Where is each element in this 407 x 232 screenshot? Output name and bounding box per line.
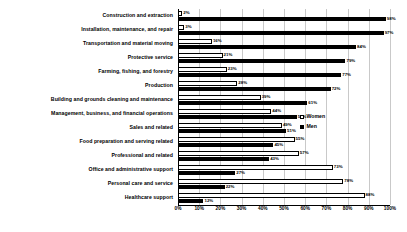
bar-men-wrap: 12% <box>178 199 390 204</box>
bar-value-label: 98% <box>386 17 396 21</box>
chart-container: Construction and extractionInstallation,… <box>0 0 407 232</box>
legend-item-women[interactable]: Women <box>300 114 325 119</box>
bar-men[interactable] <box>178 73 341 78</box>
legend-swatch-women-icon <box>300 115 304 119</box>
bar-women[interactable] <box>178 151 299 156</box>
bar-men-wrap: 79% <box>178 59 390 64</box>
bar-men-wrap: 77% <box>178 73 390 78</box>
bar-men-wrap: 56% <box>178 115 390 120</box>
bar-women-wrap: 44% <box>178 109 390 114</box>
bar-men[interactable] <box>178 157 269 162</box>
x-tick-label: 70% <box>322 207 332 212</box>
bar-women[interactable] <box>178 165 333 170</box>
bar-men[interactable] <box>178 143 273 148</box>
category-label: Farming, fishing, and forestry <box>0 65 176 79</box>
bar-women[interactable] <box>178 81 237 86</box>
bar-men[interactable] <box>178 171 235 176</box>
bar-women-wrap: 23% <box>178 67 390 72</box>
bar-women[interactable] <box>178 123 282 128</box>
x-tick-label: 20% <box>216 207 226 212</box>
bar-women-wrap: 73% <box>178 165 390 170</box>
bar-men[interactable] <box>178 101 307 106</box>
bar-value-label: 73% <box>333 165 343 169</box>
bar-value-label: 77% <box>341 73 351 77</box>
bar-row: 55%45% <box>178 135 390 149</box>
bar-value-label: 27% <box>235 171 245 175</box>
gridline <box>390 9 391 205</box>
bar-row: 16%84% <box>178 37 390 51</box>
bar-value-label: 28% <box>237 81 247 85</box>
bar-value-label: 16% <box>212 39 222 43</box>
bar-men[interactable] <box>178 31 384 36</box>
bar-row: 88%12% <box>178 191 390 205</box>
bar-men-wrap: 98% <box>178 17 390 22</box>
category-axis-labels: Construction and extractionInstallation,… <box>0 9 176 205</box>
legend-label: Men <box>307 124 317 129</box>
bar-value-label: 84% <box>356 45 366 49</box>
chart-legend: WomenMen <box>300 114 325 129</box>
bar-value-label: 61% <box>307 101 317 105</box>
category-label: Personal care and service <box>0 177 176 191</box>
x-tick-label: 90% <box>364 207 374 212</box>
bar-value-label: 43% <box>269 157 279 161</box>
bar-men[interactable] <box>178 87 331 92</box>
bar-row: 44%56% <box>178 107 390 121</box>
bar-men-wrap: 45% <box>178 143 390 148</box>
bar-women[interactable] <box>178 39 212 44</box>
bar-women[interactable] <box>178 95 261 100</box>
category-label: Healthcare support <box>0 191 176 205</box>
bar-men[interactable] <box>178 59 345 64</box>
bar-row: 23%77% <box>178 65 390 79</box>
bar-men[interactable] <box>178 115 297 120</box>
bar-women-wrap: 49% <box>178 123 390 128</box>
bar-value-label: 3% <box>184 25 191 29</box>
bar-men-wrap: 84% <box>178 45 390 50</box>
plot-area: 2%98%3%97%16%84%21%79%23%77%28%72%39%61%… <box>178 9 390 205</box>
bar-women[interactable] <box>178 179 343 184</box>
bar-row: 28%72% <box>178 79 390 93</box>
x-tick-label: 30% <box>237 207 247 212</box>
x-axis-tick-labels: 0%10%20%30%40%50%60%70%80%90%100% <box>178 207 390 217</box>
legend-swatch-men-icon <box>300 125 304 129</box>
x-tick-label: 50% <box>279 207 289 212</box>
x-tick-label: 80% <box>343 207 353 212</box>
bar-women-wrap: 21% <box>178 53 390 58</box>
category-label: Management, business, and financial oper… <box>0 107 176 121</box>
bar-row: 57%43% <box>178 149 390 163</box>
category-label: Protective service <box>0 51 176 65</box>
category-label: Office and administrative support <box>0 163 176 177</box>
bar-women[interactable] <box>178 53 223 58</box>
bar-women-wrap: 3% <box>178 25 390 30</box>
bar-value-label: 72% <box>331 87 341 91</box>
bar-men[interactable] <box>178 129 286 134</box>
bar-men[interactable] <box>178 17 386 22</box>
bar-value-label: 57% <box>299 151 309 155</box>
bar-women-wrap: 2% <box>178 11 390 16</box>
bar-men[interactable] <box>178 185 225 190</box>
bar-men-wrap: 61% <box>178 101 390 106</box>
bar-row: 3%97% <box>178 23 390 37</box>
bar-men-wrap: 51% <box>178 129 390 134</box>
bar-value-label: 79% <box>345 59 355 63</box>
bar-men[interactable] <box>178 45 356 50</box>
bar-men-wrap: 97% <box>178 31 390 36</box>
bar-row: 21%79% <box>178 51 390 65</box>
legend-item-men[interactable]: Men <box>300 124 325 129</box>
bar-women[interactable] <box>178 109 271 114</box>
bar-rows: 2%98%3%97%16%84%21%79%23%77%28%72%39%61%… <box>178 9 390 205</box>
bar-value-label: 78% <box>343 179 353 183</box>
category-label: Building and grounds cleaning and mainte… <box>0 93 176 107</box>
bar-men-wrap: 22% <box>178 185 390 190</box>
bar-women-wrap: 39% <box>178 95 390 100</box>
x-tick-label: 100% <box>384 207 396 212</box>
category-label: Construction and extraction <box>0 9 176 23</box>
category-label: Production <box>0 79 176 93</box>
bar-women[interactable] <box>178 67 227 72</box>
x-tick-label: 0% <box>175 207 182 212</box>
category-label: Transportation and material moving <box>0 37 176 51</box>
bar-value-label: 22% <box>225 185 235 189</box>
bar-men[interactable] <box>178 199 203 204</box>
bar-value-label: 45% <box>273 143 283 147</box>
bar-men-wrap: 43% <box>178 157 390 162</box>
bar-row: 49%51% <box>178 121 390 135</box>
